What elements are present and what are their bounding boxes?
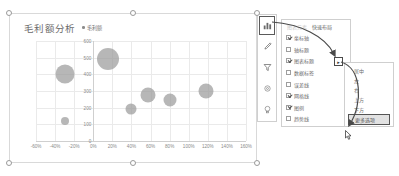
checkbox-0[interactable] [286,35,291,40]
element-option-row[interactable]: 轴标题 [286,44,350,56]
chart-styles-icon[interactable] [258,36,276,57]
checkbox-5[interactable] [286,93,291,98]
data-bubble[interactable] [163,94,176,107]
x-axis-line [36,141,246,142]
chart-legend[interactable]: 毛利额 [82,24,102,31]
gridline-vertical [246,41,247,141]
y-axis-tick-label: 500 [77,55,91,60]
legend-marker-icon [82,26,85,29]
element-option-row[interactable]: 误差线 [286,78,350,90]
legend-flyout-arrow-button[interactable]: ▸ [334,57,343,66]
element-option-label: 趋势线 [294,115,309,122]
legend-label: 毛利额 [87,24,102,31]
y-axis-tick-label: 600 [77,39,91,44]
element-option-label: 网格线 [294,92,309,99]
chevron-right-icon: ▸ [337,59,340,65]
x-axis-tick-label: 100% [180,144,198,149]
checkbox-4[interactable] [286,82,291,87]
submenu-item-1[interactable]: 左 [345,76,393,86]
element-option-row[interactable]: 图例 [286,102,350,114]
submenu-item-4[interactable]: 下方 [345,104,393,114]
checkbox-7[interactable] [286,116,291,121]
submenu-item-2[interactable]: 右 [345,85,393,95]
element-option-row[interactable]: 趋势线 [286,113,350,125]
submenu-item-5[interactable]: 更多选项 [348,114,390,125]
chart-elements-panel[interactable]: 图表元素快速布局 坐标轴轴标题图表标题数据标签误差线网格线图例趋势线 [281,19,351,127]
chart-elements-list[interactable]: 坐标轴轴标题图表标题数据标签误差线网格线图例趋势线 [282,31,350,125]
submenu-item-3[interactable]: 上方 [345,95,393,105]
chart-quick-tools-strip[interactable] [257,14,277,122]
data-bubble[interactable] [126,103,137,114]
chart-filters-icon[interactable] [258,57,276,78]
x-axis-tick-label: 40% [122,144,140,149]
data-bubble[interactable] [97,48,119,70]
format-icon[interactable] [258,78,276,99]
element-option-label: 图例 [294,104,304,111]
gridline-horizontal [36,41,246,42]
y-axis-tick-label: 300 [77,89,91,94]
selection-handle-br[interactable] [254,160,260,166]
x-axis-tick-label: 80% [161,144,179,149]
gridline-horizontal [36,124,246,125]
x-axis-tick-label: -60% [27,144,45,149]
x-axis-tick-label: 160% [237,144,255,149]
y-axis-line [93,41,94,141]
mouse-cursor-icon [345,130,352,140]
chart-object[interactable]: 毛利额分析 毛利额 -60%-40%-20%0%20%40%60%80%100%… [9,13,257,163]
plot-area[interactable]: -60%-40%-20%0%20%40%60%80%100%120%140%16… [36,41,246,141]
checkbox-3[interactable] [286,70,291,75]
x-axis-tick-label: 60% [142,144,160,149]
x-axis-tick-label: -20% [65,144,83,149]
selection-handle-tm[interactable] [130,10,136,16]
selection-handle-bm[interactable] [130,160,136,166]
selection-handle-tl[interactable] [6,10,12,16]
element-option-label: 误差线 [294,81,309,88]
data-bubble[interactable] [61,117,69,125]
y-axis-tick-label: 400 [77,72,91,77]
element-option-row[interactable]: 网格线 [286,90,350,102]
element-option-label: 轴标题 [294,46,309,53]
panel-tab-0[interactable]: 图表元素 [287,23,307,30]
element-option-label: 图表标题 [294,57,314,64]
gridline-horizontal [36,58,246,59]
checkbox-2[interactable] [286,58,291,63]
y-axis-tick-label: 100 [77,122,91,127]
checkbox-1[interactable] [286,47,291,52]
data-bubble[interactable] [55,65,74,84]
selection-handle-bl[interactable] [6,160,12,166]
element-option-row[interactable]: 数据标签 [286,67,350,79]
data-bubble[interactable] [140,88,155,103]
x-axis-tick-label: 120% [199,144,217,149]
panel-tab-1[interactable]: 快速布局 [312,23,332,30]
x-axis-tick-label: 0% [84,144,102,149]
y-axis-tick-label: 200 [77,105,91,110]
chart-title[interactable]: 毛利额分析 [24,21,76,35]
element-option-label: 数据标签 [294,69,314,76]
y-axis-tick-label: 0 [77,139,91,144]
legend-position-submenu[interactable]: 居中左右上方下方更多选项 [344,62,394,127]
element-option-row[interactable]: 坐标轴 [286,32,350,44]
ideas-icon[interactable] [258,99,276,120]
selection-handle-tr[interactable] [254,10,260,16]
x-axis-tick-label: -40% [46,144,64,149]
x-axis-tick-label: 20% [103,144,121,149]
checkbox-6[interactable] [286,105,291,110]
x-axis-tick-label: 140% [218,144,236,149]
submenu-item-0[interactable]: 居中 [345,66,393,76]
chart-elements-icon[interactable] [258,15,276,36]
panel-tab-bar[interactable]: 图表元素快速布局 [282,20,350,31]
gridline-horizontal [36,108,246,109]
element-option-label: 坐标轴 [294,34,309,41]
data-bubble[interactable] [198,84,213,99]
